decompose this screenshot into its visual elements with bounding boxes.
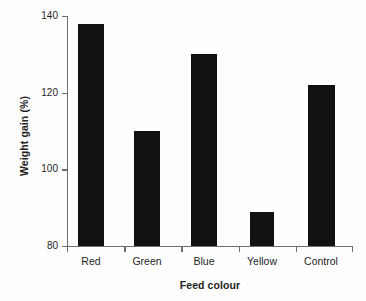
x-axis-line	[67, 246, 353, 247]
y-tick-120	[62, 93, 67, 94]
y-tick-140	[62, 16, 67, 17]
y-tick-label-140: 140	[18, 11, 58, 21]
bar-red	[78, 24, 104, 246]
x-tick-4	[296, 247, 297, 252]
bar-chart-figure: Weight gain (%) 140 120 100 80 Red Green…	[0, 0, 366, 301]
bar-blue	[191, 54, 217, 246]
x-tick-label-control: Control	[286, 255, 356, 268]
bar-yellow	[250, 212, 274, 247]
x-tick-1	[124, 247, 125, 252]
bar-green	[134, 131, 160, 246]
y-tick-100	[62, 169, 67, 170]
x-tick-5	[352, 247, 353, 252]
x-tick-0	[67, 247, 68, 252]
x-tick-3	[239, 247, 240, 252]
bar-control	[308, 85, 335, 246]
y-axis-line	[67, 16, 68, 247]
x-axis-label: Feed colour	[67, 279, 353, 291]
y-tick-label-80: 80	[18, 241, 58, 251]
x-tick-2	[181, 247, 182, 252]
y-tick-label-120: 120	[18, 88, 58, 98]
y-tick-label-100: 100	[18, 164, 58, 174]
